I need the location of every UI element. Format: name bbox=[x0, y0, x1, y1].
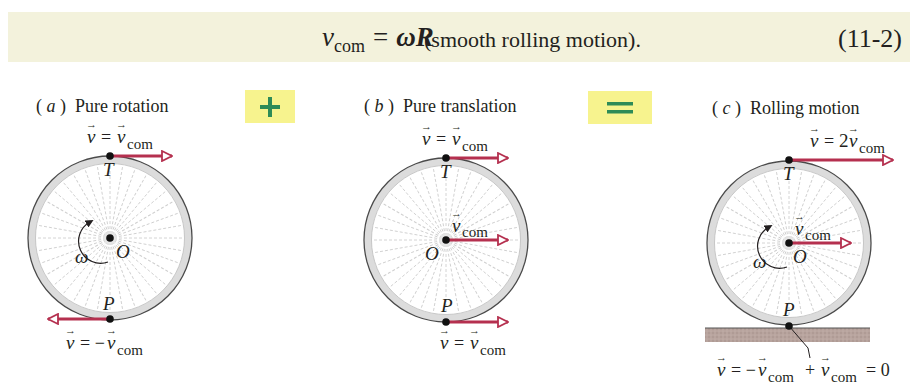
vector-arrow-icon: → bbox=[809, 122, 820, 134]
svg-text:com: com bbox=[117, 342, 143, 358]
vector-arrow-icon: → bbox=[848, 122, 859, 134]
velocity-label-c-top: v = 2 v com → → bbox=[809, 122, 885, 156]
label-c-O: O bbox=[793, 246, 807, 267]
vector-arrow-icon: → bbox=[794, 210, 805, 222]
vector-arrow-icon: → bbox=[439, 324, 450, 336]
velocity-label-a-bottom: v = − v com → → bbox=[65, 324, 143, 358]
svg-text:com: com bbox=[462, 224, 488, 240]
label-a-P: P bbox=[102, 293, 115, 314]
point-c-center bbox=[785, 239, 793, 247]
svg-text:= 0: = 0 bbox=[866, 360, 890, 380]
svg-text:=: = bbox=[454, 333, 464, 353]
label-c-T: T bbox=[783, 163, 795, 184]
svg-text:com: com bbox=[831, 369, 857, 385]
point-a-center bbox=[106, 234, 114, 242]
label-b-T: T bbox=[440, 161, 452, 182]
vector-arrow-icon: → bbox=[451, 120, 462, 132]
svg-text:com: com bbox=[768, 369, 794, 385]
label-b-P: P bbox=[440, 295, 453, 316]
svg-text:com: com bbox=[805, 227, 831, 243]
svg-text:com: com bbox=[127, 136, 153, 152]
rolling-motion-diagram: T O ω P v = v com → → v = − v com → → T … bbox=[0, 0, 918, 387]
velocity-label-b-top: v = v com → → bbox=[421, 120, 488, 154]
ground-surface bbox=[705, 328, 870, 342]
svg-text:=: = bbox=[436, 129, 446, 149]
velocity-label-c-bottom: v = − v com + v com = 0 → → → bbox=[716, 351, 890, 385]
vector-arrow-icon: → bbox=[86, 118, 97, 130]
point-a-bottom bbox=[106, 315, 114, 323]
svg-text:+: + bbox=[805, 360, 815, 380]
vector-arrow-icon: → bbox=[469, 324, 480, 336]
vector-arrow-icon: → bbox=[421, 120, 432, 132]
label-c-omega: ω bbox=[753, 251, 766, 272]
vector-arrow-icon: → bbox=[757, 351, 768, 363]
vector-arrow-icon: → bbox=[106, 324, 117, 336]
label-b-O: O bbox=[425, 243, 439, 264]
vector-arrow-icon: → bbox=[116, 118, 127, 130]
label-c-P: P bbox=[782, 299, 795, 320]
svg-text:=: = bbox=[101, 127, 111, 147]
velocity-label-a-top: v = v com → → bbox=[86, 118, 153, 152]
vector-arrow-icon: → bbox=[820, 351, 831, 363]
vector-arrow-icon: → bbox=[451, 207, 462, 219]
velocity-label-b-bottom: v = v com → → bbox=[439, 324, 506, 358]
label-a-T: T bbox=[103, 159, 115, 180]
vector-arrow-icon: → bbox=[65, 324, 76, 336]
point-c-bottom bbox=[785, 322, 793, 330]
label-a-O: O bbox=[116, 241, 130, 262]
svg-text:com: com bbox=[462, 138, 488, 154]
svg-text:com: com bbox=[859, 140, 885, 156]
label-a-omega: ω bbox=[75, 246, 88, 267]
svg-text:= −: = − bbox=[80, 333, 105, 353]
point-b-center bbox=[442, 236, 450, 244]
svg-text:=: = bbox=[824, 131, 834, 151]
svg-text:= −: = − bbox=[731, 360, 756, 380]
svg-text:com: com bbox=[480, 342, 506, 358]
vector-arrow-icon: → bbox=[716, 351, 727, 363]
